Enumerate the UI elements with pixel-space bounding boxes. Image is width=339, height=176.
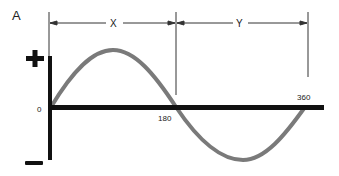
tick-label-360: 360 xyxy=(297,93,311,102)
horizontal-axis xyxy=(48,105,324,110)
dimension-label-x: X xyxy=(110,18,117,29)
dimension-label-y: Y xyxy=(236,18,243,29)
panel-label: A xyxy=(12,8,21,23)
minus-sign-icon xyxy=(25,161,43,165)
sine-wave-diagram: A X Y 0 180 360 xyxy=(0,0,339,176)
tick-label-180: 180 xyxy=(158,114,172,123)
dimension-lines xyxy=(49,12,308,95)
origin-label: 0 xyxy=(37,105,42,114)
plus-sign-icon xyxy=(26,50,44,67)
